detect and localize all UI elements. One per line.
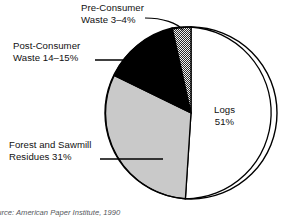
pie-chart-figure: Pre-Consumer Waste 3–4% Post-Consumer Wa… xyxy=(0,0,283,218)
pie-label-post-consumer-waste-line1: Post-Consumer xyxy=(13,40,80,51)
pie-label-post-consumer-waste-line2: Waste 14–15% xyxy=(13,52,80,64)
pie-label-logs: Logs 51% xyxy=(214,104,235,128)
source-note: Source: American Paper Institute, 1990 xyxy=(0,208,120,217)
pie-label-logs-line2: 51% xyxy=(214,116,235,128)
pie-label-post-consumer-waste: Post-Consumer Waste 14–15% xyxy=(13,40,80,64)
pie-label-pre-consumer-waste-line1: Pre-Consumer xyxy=(81,2,144,13)
pie-label-pre-consumer-waste-line2: Waste 3–4% xyxy=(81,14,144,26)
pie-label-forest-and-sawmill-residues: Forest and Sawmill Residues 31% xyxy=(9,139,91,163)
pie-label-forest-and-sawmill-residues-line2: Residues 31% xyxy=(9,151,91,163)
pie-label-pre-consumer-waste: Pre-Consumer Waste 3–4% xyxy=(81,2,144,26)
pie-label-forest-and-sawmill-residues-line1: Forest and Sawmill xyxy=(9,139,91,150)
pie-chart-graphic xyxy=(0,0,283,218)
pie-label-logs-line1: Logs xyxy=(214,104,235,115)
